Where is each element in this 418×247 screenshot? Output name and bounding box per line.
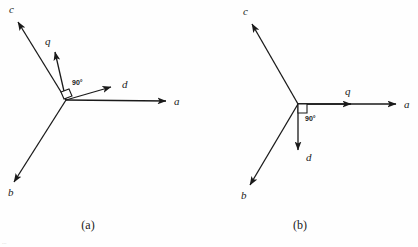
panel-a-vector-q-label: q bbox=[45, 35, 51, 47]
panel-a-caption: (a) bbox=[81, 218, 94, 232]
panel-b-vector-b-label: b bbox=[241, 189, 247, 201]
panel-b-angle-label: 90° bbox=[305, 115, 316, 122]
panel-a-vector-c-arrow bbox=[18, 22, 66, 100]
panel-a-angle-label: 90° bbox=[72, 79, 83, 86]
panel-b-caption: (b) bbox=[293, 218, 307, 232]
panel-b-vector-b-arrow bbox=[250, 104, 298, 185]
panel-b-vector-c-label: c bbox=[243, 5, 248, 17]
panel-b-vector-c-arrow bbox=[252, 24, 298, 104]
vector-diagram-canvas: a b c d q 90° (a) a b c d q bbox=[0, 0, 418, 247]
panel-a-vector-c-label: c bbox=[9, 3, 14, 15]
panel-a-vector-d-label: d bbox=[122, 78, 128, 90]
panel-a-right-angle-marker bbox=[61, 89, 72, 99]
panel-b-vector-a-label: a bbox=[404, 98, 410, 110]
panel-a-vector-b-label: b bbox=[8, 186, 14, 198]
figure-container: a b c d q 90° (a) a b c d q bbox=[0, 0, 418, 247]
panel-b-group: a b c d q 90° (b) bbox=[241, 5, 410, 232]
panel-a-vector-a-label: a bbox=[174, 95, 180, 107]
panel-a-group: a b c d q 90° (a) bbox=[8, 3, 180, 232]
panel-a-vector-b-arrow bbox=[14, 100, 66, 182]
panel-a-vector-a-arrow bbox=[66, 100, 166, 101]
panel-b-vector-q-label: q bbox=[345, 85, 351, 97]
page-edge-fragment: ... bbox=[2, 239, 7, 245]
panel-a-vector-d-arrow bbox=[66, 87, 111, 100]
panel-b-vector-d-label: d bbox=[306, 151, 312, 163]
panel-b-right-angle-marker bbox=[298, 104, 307, 113]
